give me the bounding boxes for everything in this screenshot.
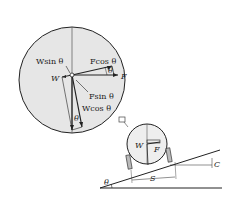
pivot-point [70,73,74,77]
label-theta-lower: θ [74,114,79,123]
diagram-canvas: Wsin θ Fcos θ W F Fsin θ Wcos θ θ θ θ W … [0,0,233,204]
label-wcos: Wcos θ [82,104,111,113]
label-fsin: Fsin θ [89,92,114,101]
label-c: C [214,160,220,169]
label-theta-upper: θ [108,66,113,75]
magnified-view: Wsin θ Fcos θ W F Fsin θ Wcos θ θ θ [19,27,127,133]
incline-view: θ W F C S [100,124,222,188]
label-s: S [150,174,156,183]
right-wheel [166,148,172,162]
magnify-marker-icon [119,117,125,122]
label-f-vehicle: F [153,145,160,154]
label-f: F [120,72,127,81]
label-fcos: Fcos θ [90,57,116,66]
label-wsin: Wsin θ [36,57,64,66]
label-w: W [51,74,60,83]
label-w-vehicle: W [135,141,144,150]
label-theta-incline: θ [104,178,109,187]
